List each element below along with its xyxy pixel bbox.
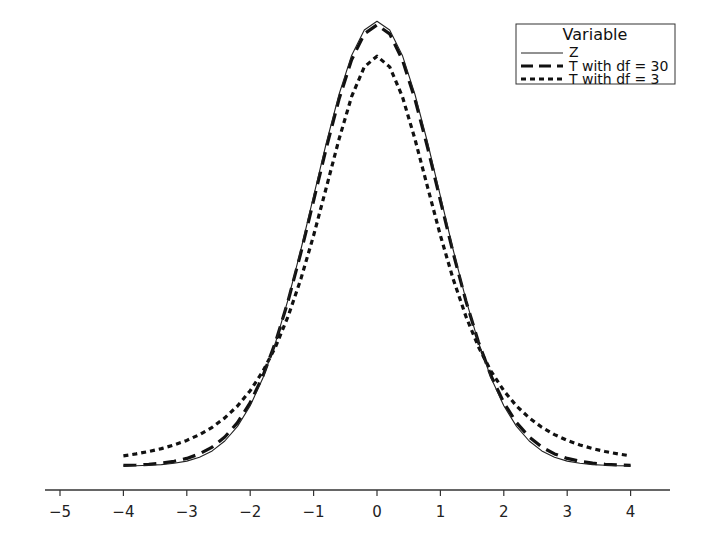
x-tick-label: −5 [49,503,71,521]
legend-title: Variable [563,25,628,44]
x-tick-label: −2 [239,503,261,521]
x-tick-label: −4 [112,503,134,521]
x-tick-label: 3 [562,503,572,521]
x-tick-label: −3 [176,503,198,521]
x-tick-label: 2 [499,503,509,521]
curves-group [123,21,630,466]
density-chart: −5−4−3−2−101234 Variable Z T with df = 3… [0,0,709,542]
x-tick-label: 0 [372,503,382,521]
x-tick-label: −1 [303,503,325,521]
series-line-t-with-df-30 [123,25,630,466]
series-line-t-with-df-3 [123,56,630,456]
legend: Variable Z T with df = 30 T with df = 3 [516,24,675,87]
legend-label-t3: T with df = 3 [568,71,660,87]
x-axis-ticks: −5−4−3−2−101234 [49,490,635,521]
series-line-z [123,21,630,466]
x-tick-label: 1 [436,503,446,521]
x-tick-label: 4 [626,503,636,521]
x-axis: −5−4−3−2−101234 [45,490,670,521]
